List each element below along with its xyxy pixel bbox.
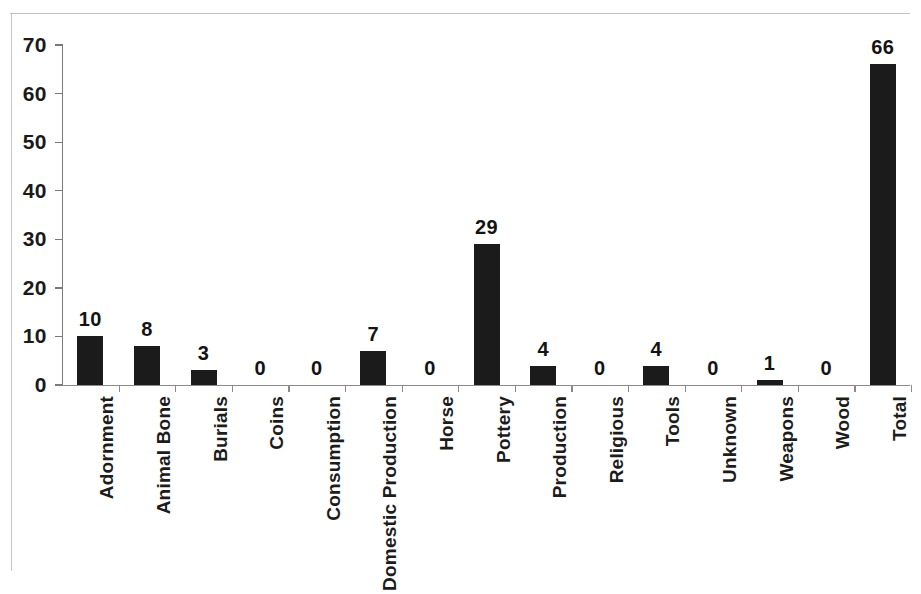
bar-burials [191,370,217,385]
x-axis-category-label: Tools [663,396,682,446]
bar-animal-bone [134,346,160,385]
x-axis-tick [515,385,516,392]
bar-value-label: 0 [424,357,435,380]
x-axis-tick [458,385,459,392]
bar-value-label: 7 [368,323,379,346]
y-axis-tick-label: 50 [0,130,47,154]
scan-frame-top-border [10,13,910,14]
x-axis-category-label: Adornment [97,396,116,499]
y-axis-tick-label: 60 [0,82,47,106]
bar-value-label: 66 [871,36,894,59]
bar-total [870,64,896,385]
bar-domestic-production [360,351,386,385]
y-axis-tick [55,142,62,143]
y-axis-tick [55,44,62,45]
x-axis-category-label: Unknown [720,396,739,483]
x-axis-category-label: Production [550,396,569,498]
bar-value-label: 4 [651,338,662,361]
bar-pottery [474,244,500,385]
y-axis-tick [55,239,62,240]
bar-value-label: 0 [594,357,605,380]
x-axis-category-label: Pottery [494,396,513,463]
bar-value-label: 8 [141,318,152,341]
x-axis-category-label: Religious [607,396,626,483]
bar-value-label: 0 [820,357,831,380]
bar-production [530,366,556,385]
x-axis-tick [119,385,120,392]
x-axis-category-label: Total [890,396,909,441]
bar-value-label: 4 [537,338,548,361]
x-axis-tick [175,385,176,392]
bar-value-label: 3 [198,342,209,365]
x-axis-tick [854,385,855,392]
x-axis-category-label: Animal Bone [154,396,173,514]
y-axis-tick-label: 40 [0,179,47,203]
x-axis-tick [741,385,742,392]
bar-adornment [77,336,103,385]
y-axis-tick-label: 10 [0,324,47,348]
bar-value-label: 29 [475,216,498,239]
y-axis-tick [55,287,62,288]
bar-value-label: 0 [311,357,322,380]
y-axis-tick-label: 30 [0,227,47,251]
x-axis-category-label: Burials [211,396,230,462]
y-axis-tick [55,384,62,385]
x-axis-tick [798,385,799,392]
x-axis-category-label: Consumption [324,396,343,521]
bar-value-label: 0 [254,357,265,380]
y-axis-tick-label: 70 [0,33,47,57]
x-axis-category-label: Domestic Production [380,396,399,591]
x-axis-tick [571,385,572,392]
y-axis-tick [55,93,62,94]
x-axis-tick [685,385,686,392]
bar-weapons [757,380,783,385]
x-axis-tick [628,385,629,392]
x-axis-tick [402,385,403,392]
x-axis-tick [345,385,346,392]
x-axis-category-label: Coins [267,396,286,450]
bar-value-label: 1 [764,352,775,375]
y-axis-tick [55,190,62,191]
x-axis-category-label: Horse [437,396,456,451]
x-axis-tick [288,385,289,392]
bar-value-label: 10 [79,308,102,331]
y-axis-tick-label: 20 [0,276,47,300]
y-axis-tick [55,336,62,337]
y-axis-tick-label: 0 [0,373,47,397]
x-axis-category-label: Wood [833,396,852,449]
bar-value-label: 0 [707,357,718,380]
x-axis-tick [911,385,912,392]
bar-tools [643,366,669,385]
x-axis-tick [232,385,233,392]
bar-chart-figure: 01020304050607010Adornment8Animal Bone3B… [0,0,921,594]
x-axis-category-label: Weapons [777,396,796,482]
